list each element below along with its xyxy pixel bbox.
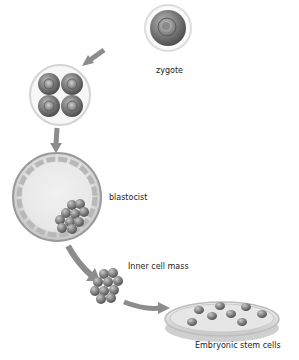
zygote-label: zygote (156, 66, 183, 75)
blastocyst-label: blastocist (109, 193, 147, 202)
zygote-cell (145, 5, 191, 51)
arrow-icon (124, 302, 170, 314)
arrow-icon (68, 246, 100, 281)
arrow-icon (50, 128, 62, 153)
embryonic-stem-cells-label: Embryonic stem cells (195, 341, 281, 350)
inner-cell-mass-label: Inner cell mass (128, 262, 189, 271)
blastocyst (13, 153, 101, 241)
petri-dish (165, 302, 279, 342)
four-cell-stage (30, 65, 90, 125)
arrow-icon (82, 50, 104, 66)
diagram-stage: zygote blastocist Inner cell mass Embryo… (0, 0, 299, 360)
diagram-canvas (0, 0, 299, 360)
